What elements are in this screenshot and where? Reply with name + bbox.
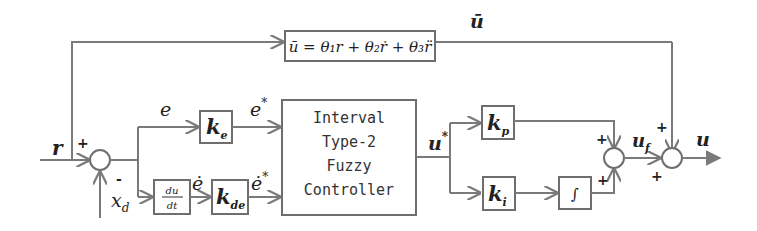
output-label-u: u xyxy=(696,128,710,150)
svg-text:Controller: Controller xyxy=(304,181,394,199)
sum3-plus-bottom: + xyxy=(651,168,663,184)
derivative-block: du dt xyxy=(154,180,190,214)
svg-text:dt: dt xyxy=(167,200,178,211)
block-diagram: ū = θ₁r + θ₂ṙ + θ₃r̈ ū r + - xd e ke e* … xyxy=(0,0,757,231)
interval-type2-fuzzy-controller: Interval Type-2 Fuzzy Controller xyxy=(282,100,416,215)
sum2-plus-bottom: + xyxy=(597,172,609,188)
feedforward-block: ū = θ₁r + θ₂ṙ + θ₃r̈ xyxy=(285,31,435,61)
integrator-block: ∫ xyxy=(559,177,591,209)
kde-gain-block: kde xyxy=(212,180,248,214)
error-derivative-label: ė xyxy=(192,172,203,194)
summing-junction-1 xyxy=(90,150,110,170)
sum1-minus-sign: - xyxy=(116,171,122,187)
input-label-r: r xyxy=(52,136,64,160)
sum2-plus-top: + xyxy=(596,131,608,147)
scaled-error-derivative-label: ė* xyxy=(251,170,268,194)
error-label: e xyxy=(160,98,171,120)
svg-text:Fuzzy: Fuzzy xyxy=(326,157,371,175)
controller-output-label: u* xyxy=(428,130,449,154)
feedback-label: xd xyxy=(111,189,130,215)
summing-junction-2 xyxy=(604,148,624,168)
sum1-plus-sign: + xyxy=(77,135,89,151)
kp-gain-block: kp xyxy=(482,106,514,139)
svg-text:Interval: Interval xyxy=(313,109,385,127)
svg-text:du: du xyxy=(166,185,179,196)
summing-junction-3 xyxy=(662,148,682,168)
svg-text:∫: ∫ xyxy=(571,185,579,203)
sum3-plus-top: + xyxy=(656,119,668,135)
scaled-error-label: e* xyxy=(250,96,267,120)
feedforward-equation: ū = θ₁r + θ₂ṙ + θ₃r̈ xyxy=(289,38,433,56)
feedforward-output-label: ū xyxy=(470,10,484,32)
svg-text:Type-2: Type-2 xyxy=(322,133,376,151)
fuzzy-output-label: uf xyxy=(632,130,652,155)
ki-gain-block: ki xyxy=(483,177,515,210)
ke-gain-block: ke xyxy=(200,111,232,143)
